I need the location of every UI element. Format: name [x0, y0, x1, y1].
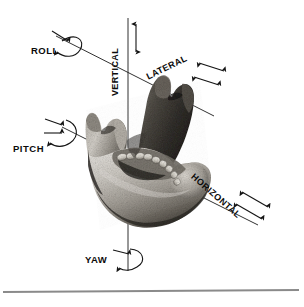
bottom-divider-rule [3, 290, 299, 292]
yaw-label: YAW [85, 254, 107, 265]
horizontal-arrow [236, 192, 268, 219]
vertical-axis-label: VERTICAL [110, 48, 120, 96]
pitch-label: PITCH [13, 143, 44, 154]
mandible-degrees-of-freedom-figure: VERTICAL LATERAL HORIZONTAL ROLL PITCH Y… [0, 0, 304, 307]
diagram-canvas: VERTICAL LATERAL HORIZONTAL ROLL PITCH Y… [0, 0, 304, 307]
pitch-rotation-arc [44, 119, 76, 146]
roll-label: ROLL [31, 45, 59, 56]
